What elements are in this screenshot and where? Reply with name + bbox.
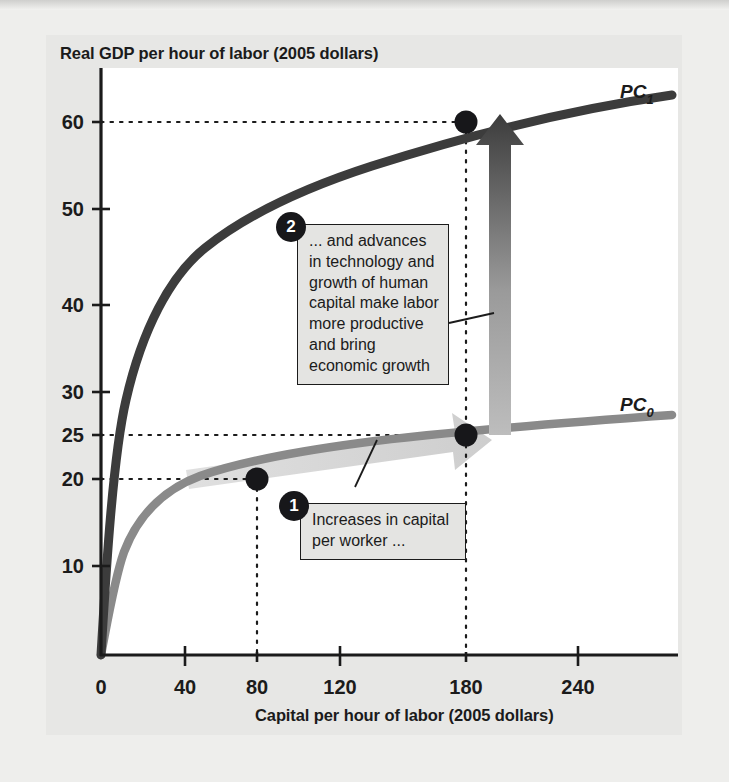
- callout-box-2: ... and advances in technology and growt…: [297, 224, 449, 385]
- ytick-10: 10: [62, 555, 84, 577]
- ytick-60: 60: [62, 111, 84, 133]
- data-point-a: [246, 468, 269, 491]
- arrow-movement-along-pc0: [186, 413, 492, 489]
- xtick-120: 120: [323, 676, 356, 698]
- chart-svg: 10 20 25 30 40 50 60 0 40 80 120 180 240…: [0, 0, 729, 782]
- ytick-40: 40: [62, 294, 84, 316]
- x-axis-tick-labels: 0 40 80 120 180 240: [95, 676, 594, 698]
- xtick-180: 180: [449, 676, 482, 698]
- callout-badge-1: 1: [279, 491, 309, 521]
- xtick-0: 0: [95, 676, 106, 698]
- ytick-50: 50: [62, 198, 84, 220]
- xtick-80: 80: [246, 676, 268, 698]
- y-axis-tick-labels: 10 20 25 30 40 50 60: [62, 111, 84, 577]
- data-point-c: [455, 111, 478, 134]
- callout-badge-2: 2: [276, 212, 306, 242]
- xtick-240: 240: [561, 676, 594, 698]
- ytick-30: 30: [62, 381, 84, 403]
- xtick-40: 40: [174, 676, 196, 698]
- figure-container: Real GDP per hour of labor (2005 dollars…: [0, 0, 729, 782]
- callout-box-1: Increases in capital per worker ...: [300, 503, 466, 560]
- data-point-b: [455, 424, 478, 447]
- arrow-shift-up: [476, 114, 524, 435]
- ytick-20: 20: [62, 468, 84, 490]
- leader-line-callout-2: [449, 313, 494, 323]
- ytick-25: 25: [62, 424, 84, 446]
